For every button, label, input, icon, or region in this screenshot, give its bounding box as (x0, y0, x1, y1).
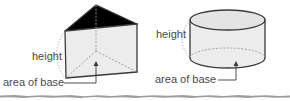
prism-base-label: area of base (3, 76, 64, 88)
cylinder-height-label: height (156, 28, 186, 40)
prism-height-label: height (32, 50, 62, 62)
cylinder-top-face (190, 10, 265, 30)
torn-edge-band (0, 95, 290, 98)
cylinder-base-label: area of base (155, 73, 216, 85)
torn-page-edge (0, 95, 290, 98)
triangular-prism: height area of base (3, 5, 137, 88)
prism-front-face (65, 24, 137, 78)
figure-canvas: height area of base height area of base (0, 0, 290, 101)
cylinder: height area of base (155, 10, 265, 85)
